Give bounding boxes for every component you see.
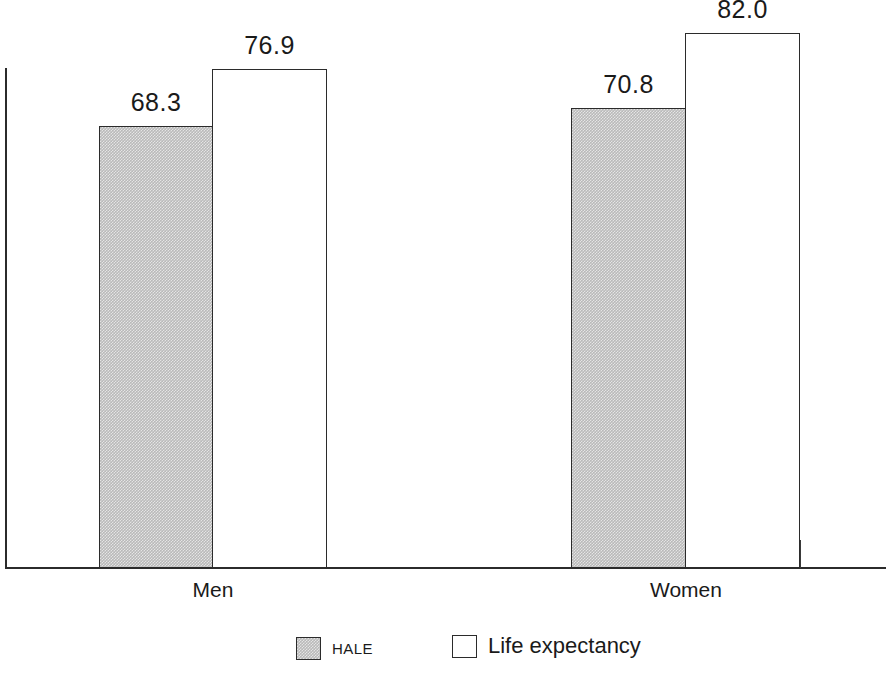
data-label-men-life-expectancy: 76.9 [209,31,330,60]
legend-swatch-hale-icon [296,637,321,660]
legend-item-life-expectancy[interactable]: Life expectancy [452,633,641,659]
bar-chart: 68.3 76.9 70.8 82.0 Men Women HALE Life … [0,0,891,675]
data-label-women-life-expectancy: 82.0 [682,0,803,24]
category-label-women: Women [624,578,748,602]
bars-container [0,0,891,568]
bar-men-life-expectancy[interactable] [212,69,327,568]
category-label-men: Men [151,578,275,602]
legend-label-life-expectancy: Life expectancy [488,633,641,659]
legend-label-hale: HALE [332,640,373,657]
bar-women-hale[interactable] [571,108,686,568]
data-label-women-hale: 70.8 [568,70,689,99]
legend-swatch-life-expectancy-icon [452,635,477,658]
bar-men-hale[interactable] [99,126,213,568]
bar-women-life-expectancy[interactable] [685,33,800,568]
legend-item-hale[interactable]: HALE [296,637,373,660]
data-label-men-hale: 68.3 [96,88,216,117]
legend: HALE Life expectancy [0,628,891,672]
plot-area: 68.3 76.9 70.8 82.0 Men Women [0,0,891,600]
